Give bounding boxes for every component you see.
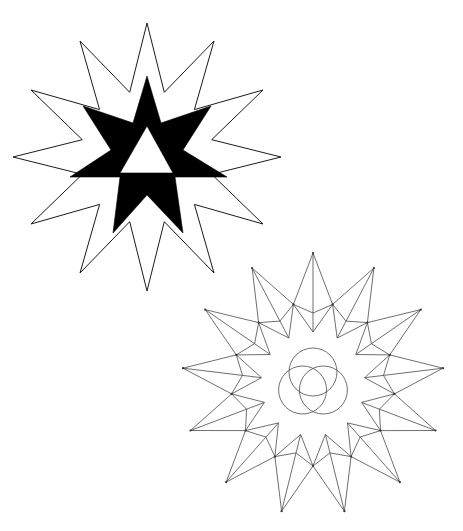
trefoil-circle: [289, 348, 337, 396]
construction-line: [346, 321, 367, 323]
vertex-dot: [393, 393, 395, 395]
construction-line: [252, 268, 259, 323]
construction-line: [183, 355, 236, 368]
construction-line: [351, 437, 360, 457]
construction-line: [282, 435, 301, 512]
construction-line: [360, 431, 380, 438]
construction-line: [367, 323, 371, 344]
construction-line: [367, 268, 374, 323]
construction-line: [275, 423, 279, 457]
construction-line: [348, 423, 400, 482]
thirteen-point-construction-star: [182, 252, 444, 512]
vertex-dot: [343, 510, 345, 512]
construction-line: [275, 457, 282, 512]
vertex-dot: [274, 456, 276, 458]
vertex-dot: [244, 430, 246, 432]
construction-line: [236, 344, 254, 355]
construction-line: [183, 368, 261, 378]
construction-line: [226, 423, 278, 482]
trefoil-circle: [299, 366, 347, 414]
construction-line: [191, 394, 232, 431]
construction-line: [365, 368, 443, 378]
vertex-dot: [292, 303, 294, 305]
construction-line: [348, 423, 352, 457]
vertex-dot: [373, 267, 375, 269]
construction-line: [362, 402, 436, 430]
construction-line: [394, 368, 443, 394]
vertex-dot: [399, 481, 401, 483]
construction-line: [226, 431, 245, 483]
construction-line: [362, 402, 381, 430]
construction-line: [246, 409, 247, 430]
construction-line: [348, 423, 381, 431]
vertex-dot: [204, 309, 206, 311]
construction-line: [356, 310, 421, 355]
construction-line: [313, 466, 344, 511]
vertex-dot: [434, 429, 436, 431]
twelve-point-star: [13, 23, 281, 291]
vertex-dot: [350, 456, 352, 458]
construction-line: [351, 457, 400, 483]
construction-line: [246, 431, 266, 438]
construction-line: [344, 457, 351, 512]
trefoil-center: [279, 348, 348, 414]
construction-line: [259, 321, 280, 323]
vertex-dot: [379, 430, 381, 432]
vertex-dot: [231, 393, 233, 395]
vertex-dot: [235, 354, 237, 356]
trefoil-circle: [279, 366, 327, 414]
vertex-dot: [366, 322, 368, 324]
vertex-dot: [312, 465, 314, 467]
construction-line: [246, 423, 279, 431]
construction-line: [232, 394, 265, 403]
construction-line: [205, 310, 270, 355]
construction-line: [362, 394, 395, 403]
construction-line: [246, 402, 265, 430]
vertex-dot: [258, 322, 260, 324]
construction-line: [313, 253, 333, 304]
construction-line: [226, 457, 275, 483]
construction-line: [390, 355, 443, 368]
construction-line: [381, 431, 400, 483]
construction-line: [183, 368, 232, 394]
geometric-stars-figure: [0, 0, 463, 531]
construction-line: [371, 344, 389, 355]
vertex-dot: [420, 309, 422, 311]
construction-line: [333, 268, 374, 304]
construction-line: [255, 323, 259, 344]
construction-line: [191, 402, 265, 430]
vertex-dot: [225, 481, 227, 483]
construction-line: [266, 437, 275, 457]
vertex-dot: [442, 367, 444, 369]
construction-line: [282, 466, 313, 511]
vertex-dot: [332, 303, 334, 305]
construction-line: [252, 268, 293, 304]
star-construction-lines: [182, 252, 444, 512]
construction-line: [293, 253, 313, 304]
construction-line: [379, 409, 380, 430]
vertex-dot: [251, 267, 253, 269]
vertex-dot: [189, 429, 191, 431]
vertex-dot: [281, 510, 283, 512]
vertex-dot: [182, 367, 184, 369]
construction-line: [325, 435, 344, 512]
vertex-dot: [389, 354, 391, 356]
construction-line: [394, 394, 435, 431]
vertex-dot: [312, 252, 314, 254]
